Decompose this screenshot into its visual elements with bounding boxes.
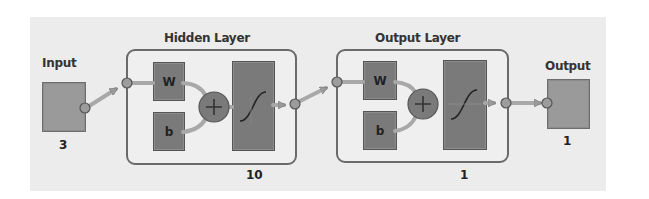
output-sigmoid-icon	[451, 90, 477, 119]
connection-wires	[0, 0, 649, 199]
hidden-sigmoid-icon	[240, 92, 266, 121]
hidden-sum-node	[199, 92, 229, 122]
output-sum-node	[408, 89, 438, 119]
